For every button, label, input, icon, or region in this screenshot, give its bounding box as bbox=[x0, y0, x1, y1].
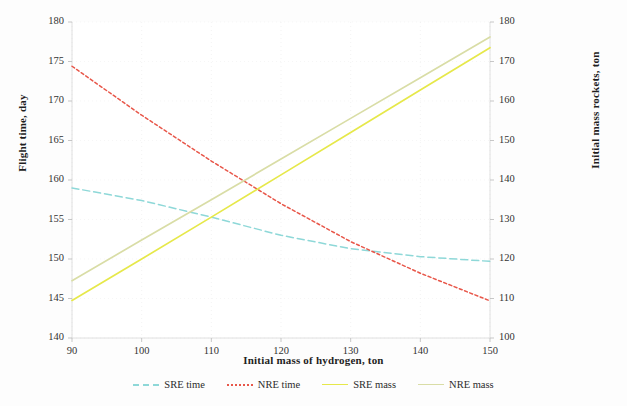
y-axis-right-tick: 150 bbox=[499, 134, 529, 145]
y-axis-left-tick: 140 bbox=[34, 331, 64, 342]
legend-item-nre-time[interactable]: NRE time bbox=[227, 379, 300, 390]
y-axis-left-tick: 145 bbox=[34, 292, 64, 303]
x-axis-tick: 150 bbox=[473, 345, 507, 356]
legend-label: SRE mass bbox=[353, 379, 396, 390]
y-axis-right-tick: 160 bbox=[499, 94, 529, 105]
legend-item-sre-mass[interactable]: SRE mass bbox=[322, 379, 396, 390]
chart-container: Flight time, day Initial mass rockets, t… bbox=[0, 0, 627, 406]
y-axis-left-tick: 160 bbox=[34, 173, 64, 184]
legend-swatch-icon bbox=[227, 384, 253, 386]
y-axis-left-tick: 175 bbox=[34, 55, 64, 66]
y-axis-right-tick: 100 bbox=[499, 331, 529, 342]
y-axis-right-tick: 140 bbox=[499, 173, 529, 184]
legend-item-nre-mass[interactable]: NRE mass bbox=[418, 379, 494, 390]
chart-plot-area bbox=[0, 0, 627, 406]
legend-item-sre-time[interactable]: SRE time bbox=[133, 379, 205, 390]
x-axis-title: Initial mass of hydrogen, ton bbox=[0, 354, 627, 366]
chart-legend: SRE timeNRE timeSRE massNRE mass bbox=[0, 379, 627, 390]
x-axis-tick: 100 bbox=[125, 345, 159, 356]
y-axis-right-tick: 130 bbox=[499, 213, 529, 224]
y-axis-left-tick: 180 bbox=[34, 15, 64, 26]
x-axis-tick: 130 bbox=[334, 345, 368, 356]
y-axis-right-tick: 180 bbox=[499, 15, 529, 26]
y-axis-left-title: Flight time, day bbox=[16, 63, 28, 203]
y-axis-left-tick: 155 bbox=[34, 213, 64, 224]
x-axis-tick: 90 bbox=[55, 345, 89, 356]
y-axis-right-tick: 110 bbox=[499, 292, 529, 303]
y-axis-right-tick: 120 bbox=[499, 252, 529, 263]
x-axis-tick: 110 bbox=[194, 345, 228, 356]
y-axis-left-tick: 165 bbox=[34, 134, 64, 145]
y-axis-right-title: Initial mass rockets, ton bbox=[589, 15, 601, 205]
y-axis-left-tick: 170 bbox=[34, 94, 64, 105]
legend-label: SRE time bbox=[164, 379, 205, 390]
legend-swatch-icon bbox=[322, 384, 348, 385]
legend-swatch-icon bbox=[418, 384, 444, 385]
legend-swatch-icon bbox=[133, 384, 159, 386]
legend-label: NRE time bbox=[258, 379, 300, 390]
y-axis-left-tick: 150 bbox=[34, 252, 64, 263]
y-axis-right-tick: 170 bbox=[499, 55, 529, 66]
x-axis-tick: 120 bbox=[264, 345, 298, 356]
legend-label: NRE mass bbox=[449, 379, 494, 390]
x-axis-tick: 140 bbox=[403, 345, 437, 356]
